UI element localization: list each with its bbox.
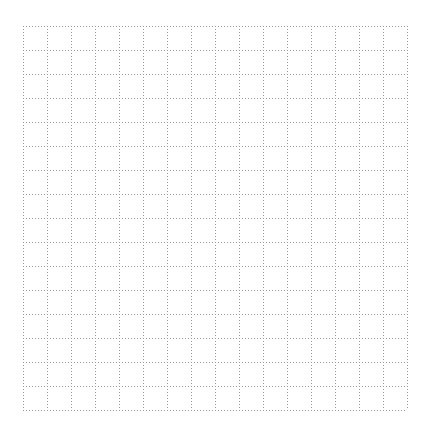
grid-lines [23, 26, 408, 411]
dotted-grid [23, 26, 407, 410]
